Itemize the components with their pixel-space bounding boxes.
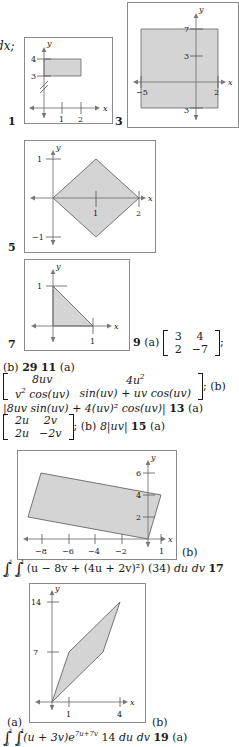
figure-3-region [141, 29, 218, 108]
answer-9-semicolon: ; [220, 336, 224, 349]
figure-15b-caption: (b) [182, 546, 198, 559]
figure-17b: 7 14 1 4 x y [29, 583, 146, 723]
figure-15b-plot: 2 4 6 −8 −6 −4 −2 1 x y [18, 451, 176, 559]
answer-13-part-a: (a) [188, 402, 203, 415]
figure-7-plot: 1 1 x y [25, 260, 129, 350]
figure-5-number: 5 [8, 241, 16, 254]
svg-text:1: 1 [93, 209, 98, 218]
answer-11-matrix-line: 8uv4u2 v2 cos(uv)sin(uv) + uv cos(uv) ; … [3, 373, 226, 400]
integral-upper-1: 1 [9, 559, 13, 565]
answer-15-differentials: du dv [174, 562, 205, 575]
svg-text:7: 7 [184, 25, 189, 34]
answer-15-part-a: (a) [150, 420, 165, 433]
svg-text:2: 2 [136, 513, 141, 522]
answer-13-matrix: 2u2v 2u−2v [3, 414, 74, 440]
answer-17-integral-line: ∫10 ∫10 (u + 3v)e7u+7v 14 du dv 19 (a) [3, 730, 187, 746]
figure-7-region [53, 286, 93, 326]
svg-text:−1: −1 [32, 233, 44, 242]
svg-text:−4: −4 [88, 547, 100, 556]
integral-lower-1: 0 [5, 572, 9, 578]
svg-text:14: 14 [31, 598, 41, 607]
integral-sign-outer: ∫10 [3, 561, 11, 577]
figure-1-region [44, 59, 81, 76]
svg-text:y: y [55, 143, 61, 152]
answer-19-number: 19 [153, 731, 168, 744]
figure-15b-region [28, 473, 161, 539]
svg-text:1: 1 [37, 155, 42, 164]
svg-text:2: 2 [136, 209, 141, 218]
svg-text:x: x [148, 194, 153, 203]
clipped-text: dx; [0, 40, 15, 52]
figure-1: 3 4 1 2 x y [24, 37, 113, 124]
integral-lower-2: 0 [17, 572, 21, 578]
figure-15b: 2 4 6 −8 −6 −4 −2 1 x y [17, 450, 177, 560]
figure-3-number: 3 [115, 115, 123, 128]
integral-lower-4: 0 [17, 741, 21, 747]
svg-text:4: 4 [136, 491, 141, 500]
svg-text:−8: −8 [35, 547, 47, 556]
svg-text:1: 1 [159, 547, 164, 556]
svg-text:x: x [228, 78, 233, 87]
svg-text:2: 2 [78, 115, 83, 123]
answer-13-number: 13 [169, 402, 184, 415]
figure-3-plot: 7 3 3 −5 2 x y [128, 3, 238, 127]
answer-9-part-a: (a) [144, 336, 159, 349]
clipped-text-fragment: dx; [0, 40, 18, 56]
svg-text:7: 7 [33, 648, 38, 657]
svg-text:−6: −6 [62, 547, 74, 556]
answer-9-matrix: 34 2−7 [163, 330, 220, 356]
svg-text:x: x [130, 698, 135, 707]
integral-lower-3: 0 [5, 741, 9, 747]
svg-text:y: y [46, 39, 52, 48]
figure-3: 7 3 3 −5 2 x y [127, 2, 239, 128]
svg-text:3: 3 [31, 72, 36, 81]
svg-text:−5: −5 [136, 88, 148, 97]
figure-17b-plot: 7 14 1 4 x y [30, 584, 145, 722]
answer-13-semicolon: ; [74, 420, 78, 433]
answer-17-factor: 14 [102, 731, 116, 744]
svg-text:4: 4 [31, 55, 36, 64]
answer-11-part-b: (b) [210, 380, 226, 393]
answer-13-b-expression: 8|uv| [100, 420, 128, 433]
answer-9-number: 9 [133, 336, 141, 349]
svg-text:1: 1 [37, 282, 42, 291]
answer-9-line: 9 (a) 34 2−7 ; [133, 330, 224, 356]
answer-17-differentials: du dv [119, 731, 150, 744]
svg-text:−2: −2 [115, 547, 127, 556]
integral-sign-inner-2: ∫10 [15, 730, 23, 746]
figure-7: 1 1 x y [24, 259, 130, 351]
answer-17-integrand: (u + 3v)e [23, 731, 75, 744]
answer-15-integral-line: ∫10 ∫10 (u − 8v + (4u + 2v)²) (34) du dv… [3, 561, 224, 577]
answer-15-number: 15 [131, 420, 146, 433]
answer-17-number: 17 [208, 562, 223, 575]
figure-17b-region [52, 602, 120, 702]
integral-upper-3: 1 [9, 728, 13, 734]
answer-19-part-a: (a) [172, 731, 187, 744]
answer-11-matrix: 8uv4u2 v2 cos(uv)sin(uv) + uv cos(uv) [3, 373, 203, 400]
figure-5-plot: 1 −1 1 2 x y [25, 141, 155, 252]
svg-text:4: 4 [117, 710, 122, 719]
figure-1-plot: 3 4 1 2 x y [25, 38, 112, 123]
svg-text:3: 3 [184, 52, 189, 61]
svg-text:x: x [103, 104, 108, 113]
svg-text:x: x [114, 322, 119, 331]
figure-7-number: 7 [8, 338, 16, 351]
answer-15-integrand: (u − 8v + (4u + 2v)²) (34) [27, 562, 171, 575]
svg-text:y: y [198, 5, 204, 14]
svg-text:y: y [55, 262, 61, 271]
svg-text:y: y [150, 453, 156, 462]
svg-text:x: x [168, 535, 173, 544]
answer-13-matrix-line: 2u2v 2u−2v ; (b) 8|uv| 15 (a) [3, 414, 165, 440]
integral-upper-2: 1 [21, 559, 25, 565]
answer-17-exponent: 7u+7v [75, 730, 98, 738]
integral-sign-outer-2: ∫10 [3, 730, 11, 746]
svg-text:1: 1 [90, 337, 95, 346]
svg-text:6: 6 [136, 469, 141, 478]
figure-1-number: 1 [8, 115, 16, 128]
figure-5: 1 −1 1 2 x y [24, 140, 156, 253]
answer-11-semicolon: ; [203, 380, 207, 393]
svg-text:y: y [54, 584, 60, 593]
figure-17b-caption-right: (b) [152, 716, 168, 729]
integral-sign-inner: ∫10 [15, 561, 23, 577]
integral-upper-4: 1 [21, 728, 25, 734]
